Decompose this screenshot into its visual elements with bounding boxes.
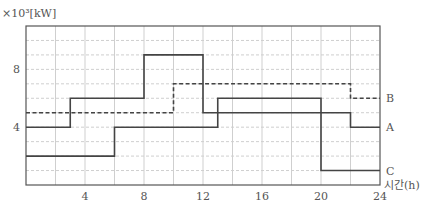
y-tick-label: 8 [13,63,20,76]
x-tick-labels: 4812162024 [82,190,388,203]
series-label-c: C [386,165,394,178]
x-axis-label: 시간(h) [384,179,420,192]
y-tick-label: 4 [13,121,20,134]
y-axis-label: ×10³[kW] [2,7,56,20]
series-end-labels: ABC [385,92,395,177]
x-tick-label: 4 [82,190,89,203]
x-tick-label: 8 [141,190,148,203]
x-tick-label: 20 [314,190,328,203]
series-label-a: A [385,121,395,134]
y-tick-labels: 48 [13,63,20,134]
step-load-chart: ×10³[kW] 시간(h) 4812162024 48 ABC [0,0,426,212]
x-tick-label: 24 [373,190,387,203]
x-tick-label: 12 [196,190,210,203]
series-label-b: B [386,92,394,105]
x-tick-label: 16 [255,190,269,203]
